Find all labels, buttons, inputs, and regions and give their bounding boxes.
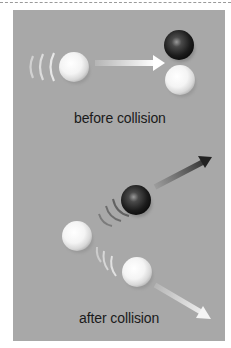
motion-arcs-icon [31,53,55,81]
white-ball-moving [59,52,89,82]
after-section [62,156,212,319]
motion-arcs-icon [97,247,116,276]
white-ball-at-rest [165,65,195,95]
collision-diagram-panel: before collision after collision [13,10,225,341]
arrow-up-right-icon [155,156,212,187]
black-ball-moving [121,185,151,215]
dashed-separator [0,2,231,3]
after-collision-label: after collision [79,310,159,326]
white-ball-deflected [122,257,152,287]
arrow-right-icon [95,55,165,71]
diagram-canvas [13,10,225,341]
before-section [31,30,197,97]
black-ball-at-rest [164,30,194,60]
white-ball-stationary [62,221,92,251]
arrow-down-right-icon [155,285,211,319]
before-collision-label: before collision [74,110,166,126]
